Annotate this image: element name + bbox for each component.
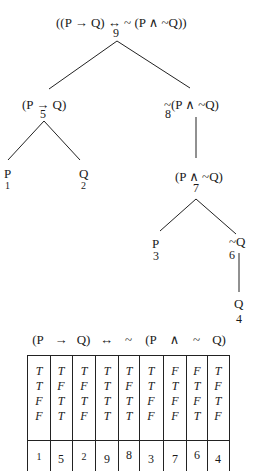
cell: F (140, 395, 162, 407)
cell: T (118, 365, 140, 377)
table-separator-rule (27, 440, 229, 441)
root-label: 9 (113, 27, 119, 39)
negq-formula: ~Q (229, 235, 245, 249)
table-top-rule (27, 355, 229, 356)
cell: F (73, 410, 95, 422)
order-index: 2 (73, 451, 95, 462)
cell: F (28, 395, 50, 407)
cell: T (73, 395, 95, 407)
cell: F (164, 365, 186, 377)
header-1: → (50, 333, 72, 347)
cell: F (207, 380, 229, 392)
tree-edges (0, 0, 262, 330)
right-label: 8 (165, 108, 171, 120)
cell: T (118, 395, 140, 407)
cell: T (96, 380, 118, 392)
leaf-p1-formula: P (4, 167, 11, 181)
cell: F (186, 365, 208, 377)
order-index: 7 (164, 452, 186, 467)
cell: T (50, 365, 72, 377)
leaf-q4-formula: Q (234, 297, 243, 311)
cell: F (140, 410, 162, 422)
order-index: 6 (186, 448, 208, 463)
cell: F (118, 380, 140, 392)
order-index: 1 (28, 451, 50, 462)
cell: T (96, 365, 118, 377)
right-formula: ~(P ∧ ~Q) (164, 98, 219, 112)
cell: T (164, 380, 186, 392)
header-8: Q) (207, 333, 231, 347)
leaf-q2-formula: Q (79, 167, 88, 181)
header-7: ~ (186, 333, 207, 347)
order-index: 3 (140, 452, 162, 467)
leaf-q2-label: 2 (81, 180, 86, 192)
cell: F (164, 410, 186, 422)
cell: F (50, 380, 72, 392)
header-6: ∧ (163, 333, 186, 347)
cell: T (50, 410, 72, 422)
cell: T (73, 365, 95, 377)
order-index: 8 (118, 448, 140, 463)
conj-label: 7 (193, 182, 199, 194)
cell: T (207, 395, 229, 407)
cell: T (96, 410, 118, 422)
cell: F (164, 395, 186, 407)
order-index: 9 (96, 452, 118, 467)
truth-table: T T F F T F T T T F T F T T T T T F T T … (27, 355, 229, 471)
header-4: ~ (118, 333, 139, 347)
col-line (229, 355, 230, 471)
leaf-p1-label: 1 (5, 180, 10, 192)
order-index: 5 (50, 452, 72, 467)
header-2: Q) (72, 333, 95, 347)
header-5: (P (139, 333, 163, 347)
cell: T (186, 380, 208, 392)
leaf-p3-label: 3 (153, 250, 159, 262)
cell: T (140, 380, 162, 392)
left-label: 5 (40, 108, 46, 120)
cell: F (186, 395, 208, 407)
cell: T (96, 395, 118, 407)
cell: F (207, 410, 229, 422)
cell: F (73, 380, 95, 392)
cell: F (28, 410, 50, 422)
header-3: ↔ (95, 333, 118, 347)
order-index: 4 (207, 452, 229, 467)
cell: T (28, 365, 50, 377)
root-formula: ((P → Q) ↔ ~ (P ∧ ~Q)) (56, 16, 187, 30)
cell: T (28, 380, 50, 392)
cell: T (186, 410, 208, 422)
negq-label: 6 (229, 249, 235, 261)
leaf-q4-label: 4 (236, 313, 242, 325)
cell: T (50, 395, 72, 407)
cell: T (118, 410, 140, 422)
header-0: (P (26, 333, 50, 347)
cell: T (207, 365, 229, 377)
cell: T (140, 365, 162, 377)
